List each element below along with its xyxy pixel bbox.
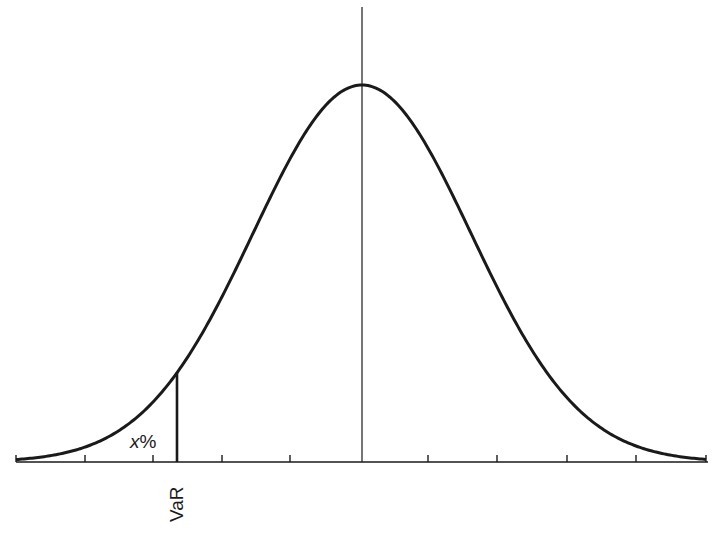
normal-curve (16, 85, 706, 460)
tail-probability-label: x% (130, 431, 156, 453)
axis-ticks (16, 455, 706, 462)
normal-distribution-plot (0, 0, 725, 546)
var-label: VaR (166, 470, 188, 522)
x-variable: x (130, 431, 140, 452)
percent-sign: % (140, 431, 157, 452)
